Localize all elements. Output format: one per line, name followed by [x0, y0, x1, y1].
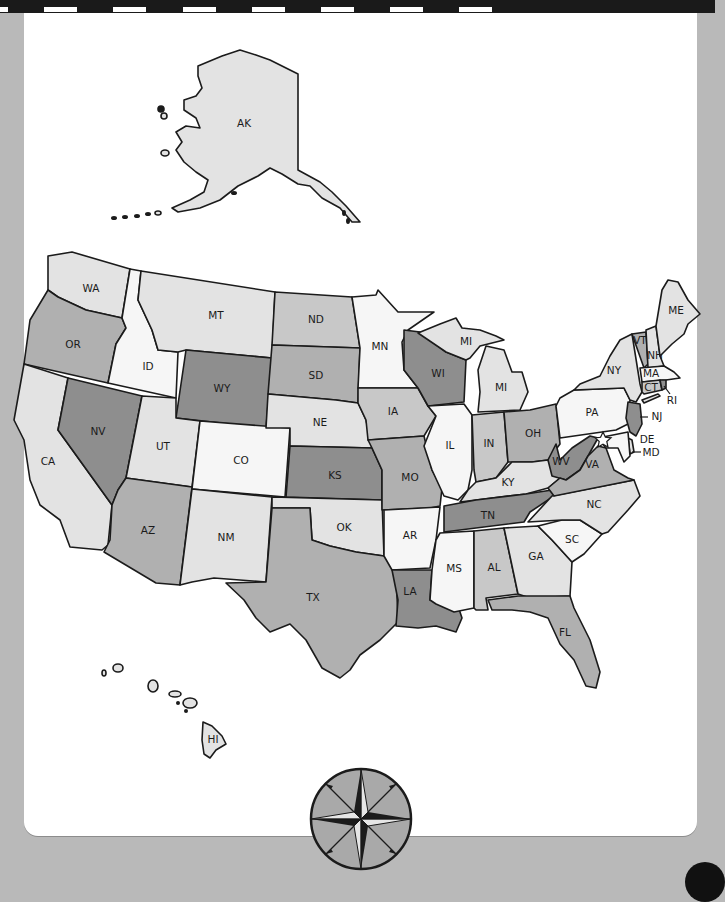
state-label: OK	[336, 521, 352, 533]
state-label: LA	[403, 585, 417, 597]
state-label: OH	[525, 427, 541, 439]
state-label: CT	[644, 381, 658, 393]
callout-line-ri	[664, 386, 670, 394]
state-label: MS	[446, 562, 462, 574]
state-label: MI	[495, 381, 507, 393]
compass-rose	[311, 769, 411, 869]
state-label: NE	[313, 416, 328, 428]
state-ME[interactable]: ME	[656, 280, 700, 356]
state-AK[interactable]: AK	[111, 50, 360, 224]
state-AZ[interactable]: AZ	[104, 478, 192, 585]
state-SD[interactable]: SD	[268, 345, 360, 403]
state-label: KY	[502, 476, 516, 488]
state-label: MT	[208, 309, 224, 321]
state-NJ[interactable]	[626, 402, 642, 436]
state-MI[interactable]: MI	[478, 346, 528, 412]
state-label: NV	[90, 425, 106, 437]
callout-label-ri: RI	[667, 394, 677, 406]
state-AR[interactable]: AR	[384, 507, 440, 570]
state-label: AL	[487, 561, 500, 573]
state-ND[interactable]: ND	[272, 292, 360, 348]
state-label: HI	[208, 733, 219, 745]
state-label: MA	[643, 367, 660, 379]
state-CO[interactable]: CO	[192, 421, 290, 497]
state-WY[interactable]: WY	[176, 350, 272, 428]
state-label: IN	[484, 437, 495, 449]
state-label: WA	[83, 282, 101, 294]
state-label: UT	[156, 440, 171, 452]
state-label: WI	[431, 367, 444, 379]
state-label: MO	[401, 471, 418, 483]
state-label: WV	[552, 455, 570, 467]
state-label: SD	[309, 369, 324, 381]
state-MT[interactable]: MT	[138, 271, 275, 358]
state-label: IA	[388, 405, 399, 417]
state-label: SC	[565, 533, 579, 545]
state-HI[interactable]: HI	[102, 664, 226, 758]
state-label: NC	[586, 498, 601, 510]
callout-label-nj: NJ	[652, 410, 663, 422]
state-MS[interactable]: MS	[430, 531, 474, 612]
state-label: MN	[372, 340, 389, 352]
state-label: AZ	[141, 524, 155, 536]
state-FL[interactable]: FL	[488, 596, 600, 688]
state-PA[interactable]: PA	[556, 388, 630, 438]
state-label: FL	[559, 626, 571, 638]
state-RI[interactable]	[660, 380, 666, 390]
state-CT[interactable]: CT	[642, 380, 662, 394]
callout-label-de: DE	[640, 433, 655, 445]
state-label: MI	[460, 335, 472, 347]
state-label: ND	[308, 313, 324, 325]
state-label: GA	[528, 550, 544, 562]
state-label: PA	[586, 406, 600, 418]
state-label: OR	[65, 338, 81, 350]
state-label: NM	[218, 531, 235, 543]
state-NM[interactable]: NM	[180, 489, 272, 585]
state-label: TN	[480, 509, 495, 521]
state-label: VA	[585, 458, 600, 470]
state-label: WY	[214, 382, 231, 394]
state-label: AK	[237, 117, 252, 129]
state-label: CO	[233, 454, 249, 466]
state-label: NY	[607, 364, 622, 376]
state-label: AR	[403, 529, 417, 541]
state-label: ID	[142, 360, 153, 372]
state-label: VT	[633, 334, 647, 346]
state-label: IL	[446, 439, 455, 451]
state-KS[interactable]: KS	[286, 446, 382, 500]
long-island	[642, 394, 660, 403]
callout-label-md: MD	[642, 446, 659, 458]
state-label: KS	[328, 469, 342, 481]
state-label: CA	[41, 455, 56, 467]
state-label: TX	[305, 591, 320, 603]
state-label: ME	[668, 304, 684, 316]
